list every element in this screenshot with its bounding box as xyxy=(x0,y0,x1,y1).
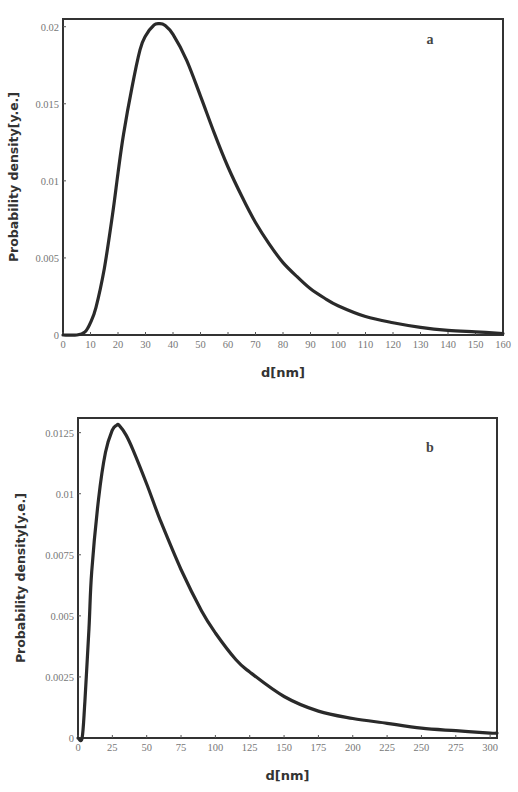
y-tick-label: 0.0075 xyxy=(45,550,74,561)
chart-panel-a: 0102030405060708090100110120130140150160… xyxy=(0,0,518,396)
x-tick-label: 0 xyxy=(60,339,65,350)
x-tick-label: 60 xyxy=(223,339,234,350)
x-tick-label: 125 xyxy=(242,742,258,753)
chart-panel-b: 025507510012515017520022525027530000.002… xyxy=(0,396,518,792)
chart-a-canvas: 0102030405060708090100110120130140150160… xyxy=(0,0,518,396)
x-tick-label: 50 xyxy=(195,339,206,350)
y-tick-label: 0.01 xyxy=(56,489,74,500)
y-tick-label: 0 xyxy=(69,733,74,744)
x-tick-label: 10 xyxy=(85,339,96,350)
x-tick-label: 100 xyxy=(208,742,224,753)
panel-label: b xyxy=(426,440,434,455)
y-tick-label: 0.005 xyxy=(50,611,74,622)
y-axis-label: Probability density[y.e.] xyxy=(13,493,28,663)
x-tick-label: 250 xyxy=(414,742,430,753)
x-tick-label: 70 xyxy=(250,339,261,350)
x-tick-label: 175 xyxy=(311,742,327,753)
x-tick-label: 150 xyxy=(276,742,292,753)
panel-label: a xyxy=(427,32,434,47)
x-tick-label: 25 xyxy=(107,742,118,753)
x-tick-label: 100 xyxy=(330,339,346,350)
plot-frame xyxy=(63,19,503,335)
y-tick-label: 0 xyxy=(54,330,59,341)
x-tick-label: 300 xyxy=(482,742,498,753)
x-tick-label: 0 xyxy=(75,742,80,753)
x-tick-label: 110 xyxy=(358,339,373,350)
y-tick-label: 0.02 xyxy=(41,22,59,33)
x-tick-label: 20 xyxy=(113,339,124,350)
x-axis-label: d[nm] xyxy=(266,768,310,783)
x-tick-label: 50 xyxy=(141,742,152,753)
y-axis-label: Probability density[y.e.] xyxy=(6,92,21,262)
x-tick-label: 130 xyxy=(413,339,429,350)
distribution-curve xyxy=(63,24,503,336)
x-tick-label: 80 xyxy=(278,339,289,350)
distribution-curve xyxy=(78,424,497,740)
x-tick-label: 225 xyxy=(379,742,395,753)
x-tick-label: 40 xyxy=(168,339,179,350)
x-tick-label: 150 xyxy=(468,339,484,350)
y-tick-label: 0.0125 xyxy=(45,428,74,439)
x-tick-label: 275 xyxy=(448,742,464,753)
x-tick-label: 160 xyxy=(495,339,511,350)
x-tick-label: 75 xyxy=(176,742,187,753)
y-tick-label: 0.0025 xyxy=(45,672,74,683)
y-tick-label: 0.01 xyxy=(41,176,59,187)
chart-b-canvas: 025507510012515017520022525027530000.002… xyxy=(0,396,518,792)
y-tick-label: 0.015 xyxy=(35,99,59,110)
x-tick-label: 90 xyxy=(305,339,316,350)
x-tick-label: 120 xyxy=(385,339,401,350)
x-tick-label: 140 xyxy=(440,339,456,350)
x-tick-label: 200 xyxy=(345,742,361,753)
x-axis-label: d[nm] xyxy=(261,365,305,380)
y-tick-label: 0.005 xyxy=(35,253,59,264)
x-tick-label: 30 xyxy=(140,339,151,350)
